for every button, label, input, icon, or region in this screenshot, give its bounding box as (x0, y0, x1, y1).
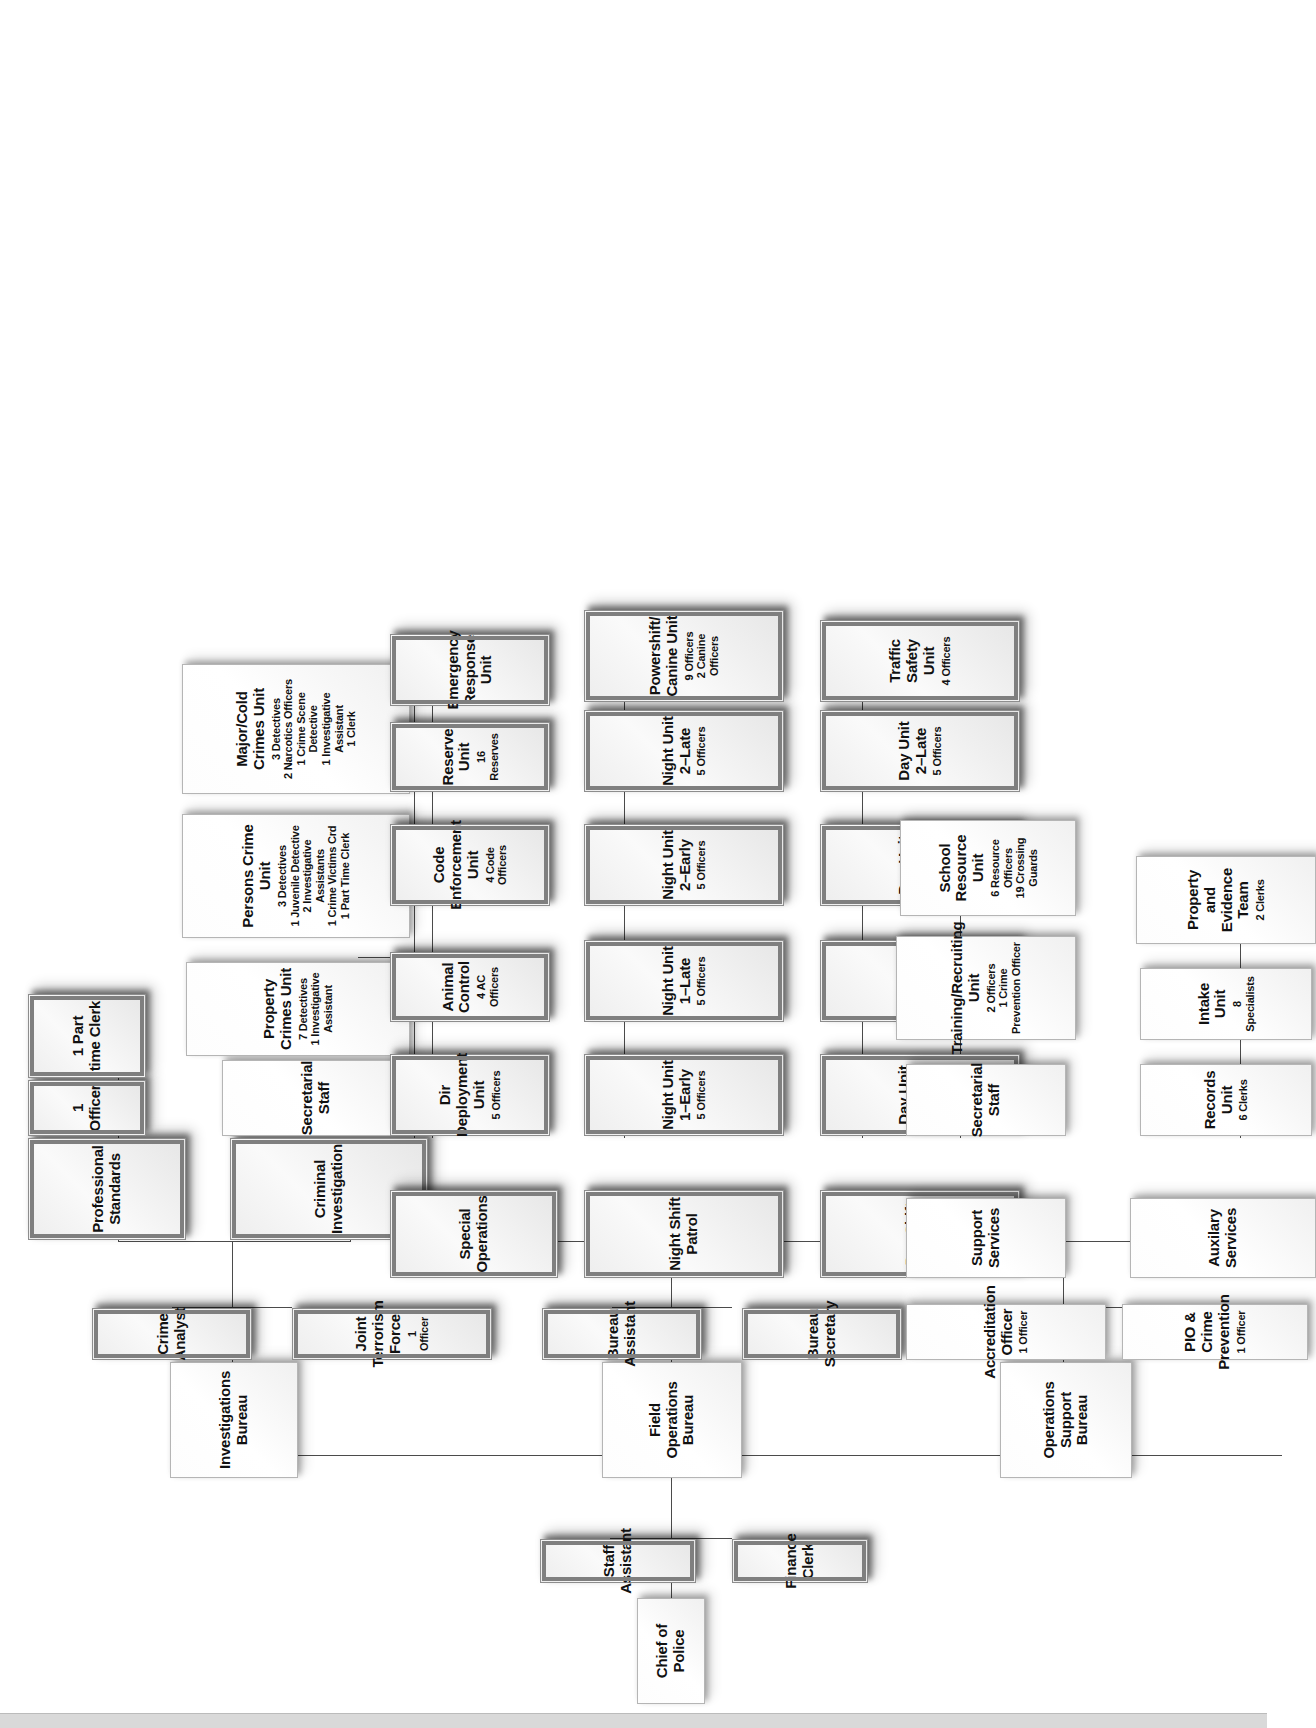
node-pio-crime-prevention[interactable]: PIO & Crime Prevention 1 Officer (1122, 1304, 1308, 1360)
node-intake-unit[interactable]: Intake Unit 8 Specialists (1140, 968, 1312, 1040)
node-title: Code Enforcement Unit (431, 820, 481, 909)
node-subtext: 1 Officer (1235, 1311, 1248, 1354)
node-records-unit[interactable]: Records Unit 6 Clerks (1140, 1064, 1312, 1136)
node-subtext: 4 Code Officers (484, 829, 509, 901)
node-subtext: 16 Reserves (475, 727, 500, 787)
node-title: Records Unit (1202, 1069, 1236, 1131)
node-code-enforcement-unit[interactable]: Code Enforcement Unit 4 Code Officers (390, 824, 550, 906)
node-subtext: 5 Officers (931, 727, 944, 776)
node-special-operations[interactable]: Special Operations (390, 1190, 558, 1278)
node-powershift-canine-unit[interactable]: Powershift/ Canine Unit 9 Officers 2 Can… (584, 610, 784, 702)
node-subtext: 4 AC Officers (475, 957, 500, 1017)
node-title: Support Services (969, 1203, 1003, 1273)
node-title: Professional Standards (90, 1143, 124, 1235)
node-title: Persons Crime Unit (240, 819, 274, 933)
node-title: Day Unit 2–Late (896, 715, 930, 787)
node-subtext: 4 Officers (940, 637, 953, 686)
node-subtext: 1 Officer (406, 1313, 431, 1355)
node-subtext: 5 Officers (490, 1071, 503, 1120)
node-subtext: 3 Detectives 2 Narcotics Officers 1 Crim… (270, 669, 358, 789)
node-auxilary-services[interactable]: Auxilary Services (1130, 1198, 1316, 1278)
node-title: Crime Analyst (155, 1308, 189, 1361)
node-night-unit-2-late[interactable]: Night Unit 2–Late 5 Officers (584, 710, 784, 792)
node-title: Night Shift Patrol (667, 1195, 701, 1273)
node-joint-terrorism-force[interactable]: Joint Terrorism Force 1 Officer (292, 1308, 492, 1360)
node-property-evidence-team[interactable]: Property and Evidence Team 2 Clerks (1136, 856, 1316, 944)
node-title: Training/Recruiting Unit (949, 922, 983, 1055)
node-night-unit-2-early[interactable]: Night Unit 2–Early 5 Officers (584, 824, 784, 906)
node-subtext: 5 Officers (695, 841, 708, 890)
node-subtext: 6 Resource Officers 19 Crossing Guards (989, 825, 1040, 911)
node-title: Secretarial Staff (299, 1061, 333, 1136)
node-night-unit-1-early[interactable]: Night Unit 1–Early 5 Officers (584, 1054, 784, 1136)
node-crime-analyst[interactable]: Crime Analyst (92, 1308, 252, 1360)
node-title: Property Crimes Unit (261, 967, 295, 1051)
node-title: Animal Control (440, 957, 474, 1017)
node-emergency-response-unit[interactable]: Emergency Response Unit (390, 634, 550, 706)
node-subtext: 2 Clerks (1254, 879, 1267, 920)
node-title: Night Unit 1–Early (660, 1059, 694, 1131)
node-ps-part-time-clerk[interactable]: 1 Part time Clerk (28, 994, 146, 1078)
node-title: Criminal Investigation (312, 1143, 346, 1235)
node-title: Night Unit 2–Early (660, 829, 694, 901)
node-title: Special Operations (457, 1195, 491, 1273)
node-property-crimes-unit[interactable]: Property Crimes Unit 7 Detectives 1 Inve… (186, 962, 410, 1056)
node-subtext: 7 Detectives 1 Investigative Assistant (297, 967, 335, 1051)
node-ss-secretarial-staff[interactable]: Secretarial Staff (906, 1064, 1066, 1136)
node-day-unit-2-late[interactable]: Day Unit 2–Late 5 Officers (820, 710, 1020, 792)
node-dir-deployment-unit[interactable]: Dir Deployment Unit 5 Officers (390, 1054, 550, 1136)
node-subtext: 6 Clerks (1237, 1079, 1250, 1120)
node-title: Dir Deployment Unit (437, 1053, 487, 1137)
node-field-operations-bureau[interactable]: Field Operations Bureau (602, 1362, 742, 1478)
node-bureau-secretary[interactable]: Bureau Secretary (742, 1308, 902, 1360)
node-subtext: 5 Officers (695, 727, 708, 776)
node-subtext: 8 Specialists (1231, 973, 1256, 1035)
node-persons-crime-unit[interactable]: Persons Crime Unit 3 Detectives 1 Juveni… (182, 814, 410, 938)
node-title: Property and Evidence Team (1185, 861, 1252, 939)
node-title: Powershift/ Canine Unit (647, 615, 681, 697)
node-school-resource-unit[interactable]: School Resource Unit 6 Resource Officers… (900, 820, 1076, 916)
node-title: Bureau Assistant (605, 1301, 639, 1367)
node-major-cold-crimes-unit[interactable]: Major/Cold Crimes Unit 3 Detectives 2 Na… (182, 664, 410, 794)
node-support-services[interactable]: Support Services (906, 1198, 1066, 1278)
connector (118, 1241, 350, 1242)
node-title: Operations Support Bureau (1041, 1367, 1091, 1473)
node-title: 1 Officer (70, 1085, 104, 1132)
node-title: PIO & Crime Prevention (1182, 1294, 1232, 1370)
node-subtext: 9 Officers 2 Canine Officers (683, 615, 721, 697)
node-chief-of-police[interactable]: Chief of Police (637, 1598, 705, 1704)
node-ps-officer[interactable]: 1 Officer (28, 1080, 146, 1136)
node-title: 1 Part time Clerk (70, 999, 104, 1073)
node-title: Investigations Bureau (217, 1367, 251, 1473)
node-title: Traffic Safety Unit (887, 625, 937, 697)
node-traffic-safety-unit[interactable]: Traffic Safety Unit 4 Officers (820, 620, 1020, 702)
node-title: Emergency Response Unit (445, 630, 495, 709)
node-staff-assistant[interactable]: Staff Assistant (540, 1539, 696, 1583)
node-title: Staff Assistant (601, 1528, 635, 1594)
node-accreditation-officer[interactable]: Accreditation Officer 1 Officer (906, 1304, 1106, 1360)
node-title: Joint Terrorism Force (353, 1300, 403, 1367)
node-title: Finance Clerk (783, 1533, 817, 1588)
node-subtext: 3 Detectives 1 Juvenile Detective 2 Inve… (276, 819, 352, 933)
node-title: Major/Cold Crimes Unit (234, 669, 268, 789)
node-animal-control[interactable]: Animal Control 4 AC Officers (390, 952, 550, 1022)
node-subtext: 2 Officers 1 Crime Prevention Officer (985, 941, 1023, 1035)
node-operations-support-bureau[interactable]: Operations Support Bureau (1000, 1362, 1132, 1478)
node-title: Reserve Unit (440, 727, 474, 787)
node-subtext: 5 Officers (695, 1071, 708, 1120)
node-night-unit-1-late[interactable]: Night Unit 1–Late 5 Officers (584, 940, 784, 1022)
node-night-shift-patrol[interactable]: Night Shift Patrol (584, 1190, 784, 1278)
node-finance-clerk[interactable]: Finance Clerk (732, 1539, 868, 1583)
node-reserve-unit[interactable]: Reserve Unit 16 Reserves (390, 722, 550, 792)
node-professional-standards[interactable]: Professional Standards (28, 1138, 186, 1240)
node-ci-secretarial-staff[interactable]: Secretarial Staff (222, 1060, 410, 1136)
node-title: Intake Unit (1196, 973, 1230, 1035)
node-investigations-bureau[interactable]: Investigations Bureau (170, 1362, 298, 1478)
node-subtext: 5 Officers (695, 957, 708, 1006)
node-title: Night Unit 2–Late (660, 715, 694, 787)
node-bureau-assistant[interactable]: Bureau Assistant (542, 1308, 702, 1360)
node-training-recruiting-unit[interactable]: Training/Recruiting Unit 2 Officers 1 Cr… (896, 936, 1076, 1040)
node-subtext: 1 Officer (1017, 1311, 1030, 1354)
